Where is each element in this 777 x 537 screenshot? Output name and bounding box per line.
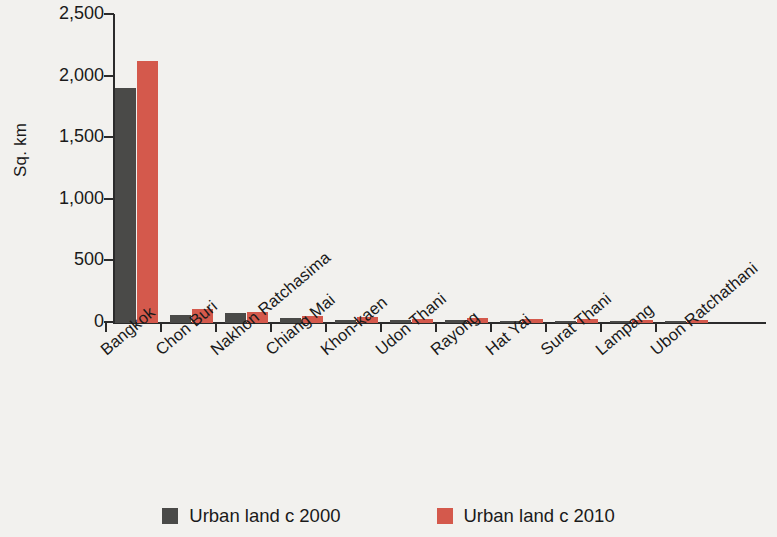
y-tick-label: 0 (36, 311, 104, 332)
x-tick-mark (435, 322, 437, 332)
x-tick-mark (105, 322, 107, 332)
y-tick-label: 1,000 (36, 188, 104, 209)
chart-legend: Urban land c 2000Urban land c 2010 (0, 505, 777, 527)
bar (137, 61, 158, 323)
bar-group (610, 14, 653, 323)
x-tick-mark (160, 322, 162, 332)
x-tick-mark (325, 322, 327, 332)
bar (115, 88, 136, 323)
bar-chart: Sq. km 05001,0001,5002,0002,500 BangkokC… (0, 0, 777, 537)
x-tick-mark (655, 322, 657, 332)
x-tick-mark (490, 322, 492, 332)
y-tick-label: 1,500 (36, 126, 104, 147)
legend-label: Urban land c 2000 (189, 505, 340, 527)
legend-item: Urban land c 2010 (437, 505, 615, 527)
legend-swatch-icon (437, 508, 453, 524)
bar-group (445, 14, 488, 323)
y-tick-label: 2,000 (36, 65, 104, 86)
legend-swatch-icon (162, 508, 178, 524)
bar-group (555, 14, 598, 323)
legend-item: Urban land c 2000 (162, 505, 340, 527)
bar-group (335, 14, 378, 323)
x-tick-mark (380, 322, 382, 332)
x-tick-mark (545, 322, 547, 332)
y-tick-label: 500 (36, 249, 104, 270)
bar-group (225, 14, 268, 323)
bar-group (665, 14, 708, 323)
x-tick-mark (215, 322, 217, 332)
bar-group (390, 14, 433, 323)
bar-group (500, 14, 543, 323)
y-axis-title: Sq. km (11, 105, 31, 195)
x-tick-mark (600, 322, 602, 332)
x-tick-mark (270, 322, 272, 332)
bar-group (115, 14, 158, 323)
y-tick-label: 2,500 (36, 3, 104, 24)
bar-group (170, 14, 213, 323)
legend-label: Urban land c 2010 (464, 505, 615, 527)
